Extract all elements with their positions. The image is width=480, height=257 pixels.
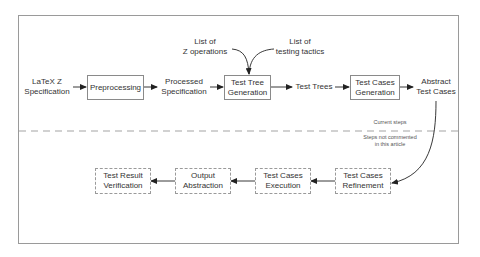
tactics-line2: testing tactics [273,47,327,57]
test-tree-generation-box: Test Tree Generation [224,75,271,100]
test-cases-generation-box: Test Cases Generation [350,75,400,100]
execution-line2: Execution [265,181,300,191]
latex-z-spec-label: LaTeX Z Specification [22,77,72,97]
tcg-line2: Generation [355,88,395,98]
steps-not-commented-label: Steps not commented in this article [355,134,425,148]
test-trees-label: Test Trees [293,82,335,92]
current-steps-text: Current steps [366,119,414,126]
refinement-line2: Refinement [343,181,384,191]
output-line1: Output [191,171,215,181]
diagram-frame [18,15,459,244]
ttg-line1: Test Tree [231,78,264,88]
latex-line1: LaTeX Z [22,77,72,87]
execution-line1: Test Cases [263,171,303,181]
output-line2: Abstraction [183,181,223,191]
processed-line1: Processed [158,77,210,87]
latex-line2: Specification [22,87,72,97]
current-steps-label: Current steps [366,119,414,126]
abstract-line1: Abstract [414,77,458,87]
not-commented-line1: Steps not commented [355,134,425,141]
output-abstraction-box: Output Abstraction [175,168,231,194]
abstract-test-cases-label: Abstract Test Cases [414,77,458,97]
processed-spec-label: Processed Specification [158,77,210,97]
testing-tactics-label: List of testing tactics [273,37,327,57]
not-commented-line2: in this article [355,141,425,148]
preprocessing-label: Preprocessing [90,83,141,93]
zops-line1: List of [180,37,230,47]
abstract-line2: Test Cases [414,87,458,97]
zops-line2: Z operations [180,47,230,57]
preprocessing-box: Preprocessing [87,75,144,100]
test-trees-text: Test Trees [293,82,335,92]
test-cases-refinement-box: Test Cases Refinement [335,168,391,194]
tactics-line1: List of [273,37,327,47]
processed-line2: Specification [158,87,210,97]
z-operations-label: List of Z operations [180,37,230,57]
verification-line1: Test Result [103,171,143,181]
test-result-verification-box: Test Result Verification [95,168,151,194]
test-cases-execution-box: Test Cases Execution [255,168,311,194]
tcg-line1: Test Cases [355,78,395,88]
verification-line2: Verification [103,181,142,191]
ttg-line2: Generation [228,88,268,98]
refinement-line1: Test Cases [343,171,383,181]
